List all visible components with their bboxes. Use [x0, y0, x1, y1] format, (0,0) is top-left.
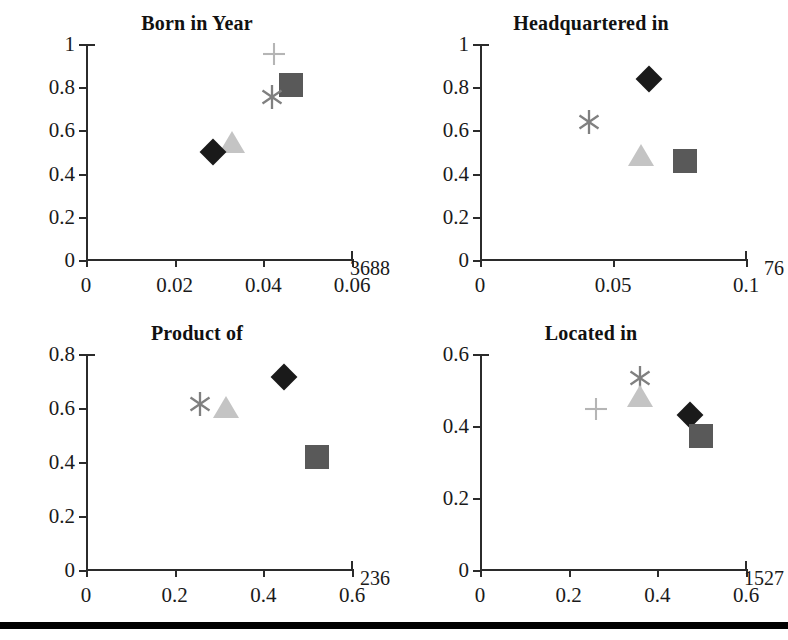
x-axis-tick: [175, 569, 177, 577]
x-axis-tick: [569, 569, 571, 577]
x-axis-tick: [352, 569, 354, 577]
y-axis-tick-label: 0.4: [443, 163, 469, 184]
subplot-title: Born in Year: [141, 12, 253, 35]
y-axis-tick: [79, 44, 87, 46]
y-axis-tick-label: 0.2: [443, 488, 469, 509]
subplot-count-annotation: 236: [360, 567, 390, 590]
y-axis-tick: [79, 217, 87, 219]
subplot-count-annotation: 76: [764, 257, 784, 280]
y-axis-cap: [480, 354, 489, 356]
plot-area: 00.20.40.60.8100.050.1: [480, 44, 746, 260]
x-axis-tick-label: 0.05: [595, 275, 632, 296]
data-point-triangle: [219, 131, 245, 153]
subplot-title: Product of: [151, 322, 243, 345]
x-axis-tick-label: 0.04: [245, 275, 282, 296]
y-axis-tick-label: 0.4: [49, 452, 75, 473]
y-axis-tick: [79, 87, 87, 89]
x-axis-tick-label: 0: [81, 275, 92, 296]
footer-divider: [0, 622, 788, 629]
y-axis-tick-label: 0.2: [443, 206, 469, 227]
x-axis-tick-label: 0: [475, 275, 486, 296]
plot-area: 00.20.40.60.800.20.40.6: [86, 354, 352, 570]
y-axis-tick: [473, 174, 481, 176]
subplot-title: Located in: [545, 322, 638, 345]
y-axis-tick: [79, 462, 87, 464]
x-axis-tick-label: 0.4: [250, 585, 276, 606]
x-axis-line: [86, 259, 353, 261]
data-point-plus: [582, 395, 610, 423]
x-axis-tick-label: 0.02: [156, 275, 193, 296]
x-axis-tick: [480, 259, 482, 267]
figure-panel: Born in Year 00.20.40.60.8100.020.040.06…: [0, 0, 788, 640]
y-axis-tick-label: 0: [459, 560, 470, 581]
data-point-square: [673, 149, 697, 173]
y-axis-tick: [473, 354, 481, 356]
y-axis-tick: [473, 498, 481, 500]
data-point-diamond: [635, 66, 662, 93]
subplot-title: Headquartered in: [513, 12, 669, 35]
data-point-square: [305, 445, 329, 469]
x-axis-tick: [657, 569, 659, 577]
subplot-located-in: Located in 00.20.40.600.20.40.6 1527: [394, 314, 788, 614]
x-axis-tick-label: 0.2: [162, 585, 188, 606]
data-point-square: [279, 73, 303, 97]
y-axis-cap: [480, 44, 489, 46]
x-axis-tick-label: 0: [475, 585, 486, 606]
y-axis-tick-label: 0.8: [49, 344, 75, 365]
data-point-diamond: [199, 139, 226, 166]
y-axis-tick-label: 0.8: [443, 77, 469, 98]
y-axis-cap: [86, 44, 95, 46]
y-axis-tick-label: 0.4: [49, 163, 75, 184]
y-axis-tick-label: 0.6: [443, 120, 469, 141]
y-axis-tick: [473, 426, 481, 428]
plot-area: 00.20.40.600.20.40.6: [480, 354, 746, 570]
x-axis-tick: [175, 259, 177, 267]
data-point-plus: [260, 40, 288, 68]
y-axis-tick: [473, 87, 481, 89]
y-axis-tick-label: 0.6: [49, 120, 75, 141]
y-axis-tick-label: 0.2: [49, 506, 75, 527]
x-axis-tick: [86, 259, 88, 267]
y-axis-tick-label: 1: [459, 34, 470, 55]
y-axis-tick-label: 0.6: [49, 398, 75, 419]
x-axis-tick-label: 0: [81, 585, 92, 606]
x-axis-tick: [263, 569, 265, 577]
x-axis-tick-label: 0.2: [556, 585, 582, 606]
data-point-asterisk: [258, 83, 286, 111]
subplot-count-annotation: 3688: [350, 257, 390, 280]
y-axis-tick: [79, 354, 87, 356]
y-axis-tick-label: 0: [65, 560, 76, 581]
x-axis-tick: [746, 259, 748, 267]
data-point-asterisk: [186, 390, 214, 418]
y-axis-tick: [79, 408, 87, 410]
y-axis-tick: [79, 174, 87, 176]
x-axis-tick: [86, 569, 88, 577]
y-axis-tick-label: 0.8: [49, 77, 75, 98]
x-axis-tick: [263, 259, 265, 267]
subplot-count-annotation: 1527: [744, 567, 784, 590]
data-point-triangle: [628, 144, 654, 166]
y-axis-tick: [473, 130, 481, 132]
y-axis-tick: [79, 130, 87, 132]
x-axis-line: [86, 569, 353, 571]
x-axis-tick: [613, 259, 615, 267]
data-point-diamond: [271, 363, 298, 390]
data-point-square: [689, 424, 713, 448]
y-axis-tick: [79, 516, 87, 518]
y-axis-tick-label: 0: [459, 250, 470, 271]
subplot-product-of: Product of 00.20.40.60.800.20.40.6 236: [0, 314, 394, 614]
y-axis-line: [86, 44, 88, 261]
plot-area: 00.20.40.60.8100.020.040.06: [86, 44, 352, 260]
y-axis-tick-label: 0.2: [49, 206, 75, 227]
x-axis-tick-label: 0.1: [733, 275, 759, 296]
y-axis-tick-label: 0.6: [443, 344, 469, 365]
y-axis-cap: [86, 354, 95, 356]
y-axis-tick-label: 0: [65, 250, 76, 271]
x-axis-tick-label: 0.4: [644, 585, 670, 606]
data-point-triangle: [627, 385, 653, 407]
y-axis-tick-label: 0.4: [443, 416, 469, 437]
subplot-born-in-year: Born in Year 00.20.40.60.8100.020.040.06…: [0, 4, 394, 304]
y-axis-tick: [473, 217, 481, 219]
data-point-asterisk: [575, 108, 603, 136]
data-point-triangle: [213, 396, 239, 418]
